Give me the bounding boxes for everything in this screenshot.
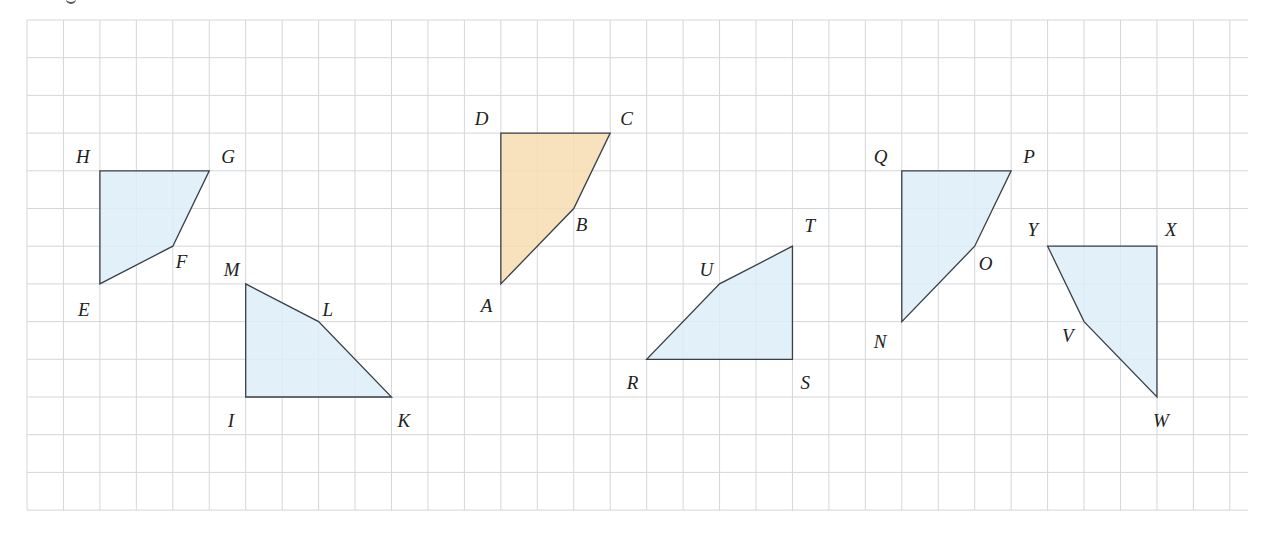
vertex-label-t: T (804, 215, 816, 236)
vertex-label-g: G (221, 146, 235, 167)
vertex-label-m: M (223, 259, 241, 280)
vertex-label-o: O (979, 253, 993, 274)
vertex-label-p: P (1022, 146, 1035, 167)
vertex-label-i: I (227, 410, 236, 431)
grid-figure: HGFEMLKIDCBATURSQPONYXWV (0, 0, 1270, 535)
quadrilateral-efgh (100, 171, 209, 284)
vertex-label-s: S (800, 372, 810, 393)
vertex-labels: HGFEMLKIDCBATURSQPONYXWV (75, 108, 1178, 431)
vertex-label-n: N (873, 331, 888, 352)
vertex-label-y: Y (1028, 219, 1041, 240)
vertex-label-k: K (397, 410, 412, 431)
vertex-label-f: F (175, 251, 188, 272)
vertex-label-b: B (576, 214, 588, 235)
vertex-label-r: R (626, 372, 639, 393)
vertex-label-l: L (322, 299, 334, 320)
vertex-label-d: D (474, 108, 489, 129)
vertex-label-q: Q (874, 146, 888, 167)
vertex-label-e: E (77, 299, 90, 320)
vertex-label-x: X (1164, 219, 1178, 240)
vertex-label-w: W (1153, 410, 1171, 431)
vertex-label-u: U (700, 259, 715, 280)
vertex-label-c: C (620, 108, 633, 129)
vertex-label-h: H (75, 146, 91, 167)
quadrilaterals (100, 133, 1157, 397)
vertex-label-v: V (1062, 325, 1076, 346)
vertex-label-a: A (479, 295, 493, 316)
